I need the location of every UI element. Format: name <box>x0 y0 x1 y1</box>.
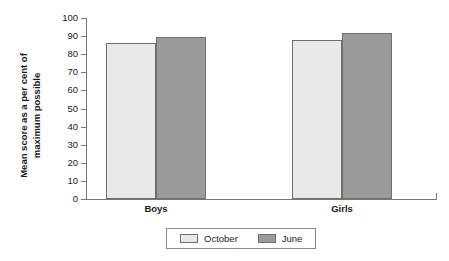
y-tick-label-text: 100 <box>52 13 78 23</box>
y-axis-title-line-1: Mean score as a per cent of <box>18 23 31 208</box>
y-tick-label-100: 100 <box>46 13 78 23</box>
y-tick-label-text: 0 <box>52 194 78 204</box>
y-tick-label-60: 60 <box>46 85 78 95</box>
legend: October June <box>166 228 316 249</box>
y-tick-label-text: 90 <box>52 31 78 41</box>
y-tick-label-text: 80 <box>52 49 78 59</box>
y-tick-label-text: 40 <box>52 122 78 132</box>
y-tick-label-30: 30 <box>46 140 78 150</box>
y-tick-label-text: 10 <box>52 176 78 186</box>
y-tick-label-text: 60 <box>52 85 78 95</box>
y-tick-label-0: 0 <box>46 194 78 204</box>
y-tick-label-20: 20 <box>46 158 78 168</box>
bar-boys-october <box>106 43 156 199</box>
y-tick-label-70: 70 <box>46 67 78 77</box>
y-axis-title: Mean score as a per cent of maximum poss… <box>18 23 43 208</box>
legend-label-october: October <box>204 233 238 244</box>
y-tick-label-text: 20 <box>52 158 78 168</box>
bars-layer <box>86 18 437 199</box>
bar-girls-june <box>342 33 392 199</box>
legend-entry-october: October <box>180 233 238 244</box>
legend-swatch-october-icon <box>180 234 198 243</box>
y-tick-label-10: 10 <box>46 176 78 186</box>
y-tick-label-80: 80 <box>46 49 78 59</box>
y-tick-0 <box>81 199 86 200</box>
legend-entry-june: June <box>258 233 303 244</box>
y-tick-label-90: 90 <box>46 31 78 41</box>
legend-label-june: June <box>282 233 303 244</box>
x-axis-line <box>86 199 437 200</box>
y-tick-label-text: 50 <box>52 104 78 114</box>
bar-chart: Mean score as a per cent of maximum poss… <box>0 0 449 261</box>
y-tick-label-text: 70 <box>52 67 78 77</box>
bar-girls-october <box>292 40 342 199</box>
x-axis-label-girls: Girls <box>292 203 392 215</box>
y-tick-label-text: 30 <box>52 140 78 150</box>
x-axis-label-boys: Boys <box>106 203 206 215</box>
y-tick-label-50: 50 <box>46 104 78 114</box>
bar-boys-june <box>156 37 206 199</box>
y-tick-label-40: 40 <box>46 122 78 132</box>
legend-swatch-june-icon <box>258 234 276 243</box>
y-axis-title-line-2: maximum possible <box>31 23 44 208</box>
